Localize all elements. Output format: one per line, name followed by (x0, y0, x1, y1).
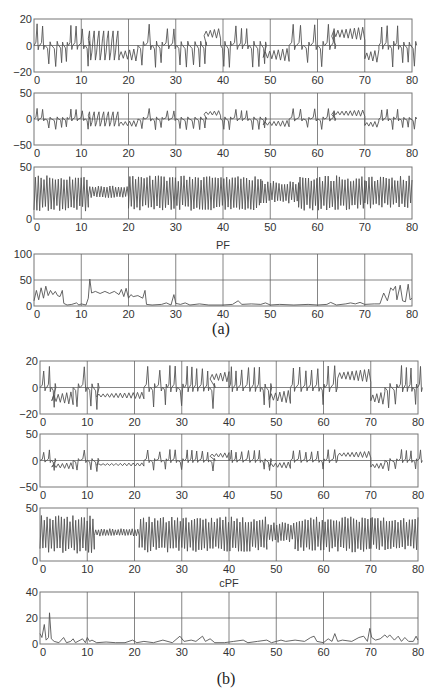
subplot-a-3: 01020304050607080050 (20, 161, 418, 233)
x-tick-label: 20 (122, 221, 134, 233)
x-tick-label: 40 (223, 416, 235, 428)
y-tick-label: 0 (26, 113, 32, 125)
caption-a: (a) (212, 320, 230, 338)
y-tick-label: 50 (20, 161, 32, 173)
x-tick-label: 0 (40, 416, 46, 428)
x-tick-label: 30 (176, 563, 188, 575)
x-tick-label: 50 (264, 308, 276, 320)
x-tick-label: 60 (317, 646, 329, 658)
x-tick-label: 30 (176, 646, 188, 658)
x-tick-label: 70 (359, 308, 371, 320)
x-tick-label: 60 (311, 147, 323, 159)
x-tick-label: 20 (128, 646, 140, 658)
subplot-a-4: 01020304050607080050100PF (14, 239, 418, 320)
subplot-b-2: 01020304050607080−50050 (19, 428, 424, 501)
x-tick-label: 20 (128, 563, 140, 575)
subplot-a-1: 01020304050607080−20020 (13, 13, 418, 86)
x-tick-label: 50 (270, 416, 282, 428)
y-tick-label: 20 (26, 355, 38, 367)
y-tick-label: 50 (20, 274, 32, 286)
x-tick-label: 20 (122, 147, 134, 159)
x-tick-label: 70 (359, 221, 371, 233)
x-tick-label: 60 (317, 563, 329, 575)
x-tick-label: 10 (81, 563, 93, 575)
x-tick-label: 70 (365, 489, 377, 501)
x-tick-label: 10 (75, 221, 87, 233)
x-tick-label: 0 (34, 221, 40, 233)
subplot-b-3: 01020304050607080050 (26, 502, 424, 575)
x-tick-label: 0 (40, 489, 46, 501)
x-tick-label: 10 (81, 646, 93, 658)
x-tick-label: 0 (34, 308, 40, 320)
y-tick-label: 0 (32, 382, 38, 394)
x-tick-label: 10 (75, 147, 87, 159)
x-tick-label: 50 (270, 563, 282, 575)
x-tick-label: 80 (406, 221, 418, 233)
subplot-a-2: 01020304050607080−50050 (13, 87, 418, 159)
x-tick-label: 80 (412, 646, 424, 658)
x-tick-label: 30 (170, 308, 182, 320)
x-tick-label: 0 (34, 74, 40, 86)
x-tick-label: 40 (217, 308, 229, 320)
x-tick-label: 70 (359, 74, 371, 86)
figure-canvas: 01020304050607080−2002001020304050607080… (0, 0, 442, 695)
y-tick-label: 100 (14, 248, 32, 260)
x-tick-label: 50 (270, 646, 282, 658)
y-tick-label: 20 (20, 13, 32, 25)
subplot-b-4: 0102030405060708002040cPF (26, 577, 424, 658)
x-tick-label: 40 (217, 221, 229, 233)
y-tick-label: 0 (26, 300, 32, 312)
x-tick-label: 20 (128, 489, 140, 501)
x-tick-label: 40 (223, 563, 235, 575)
y-tick-label: −20 (13, 66, 32, 78)
x-tick-label: 10 (81, 416, 93, 428)
x-tick-label: 60 (311, 221, 323, 233)
y-tick-label: −50 (19, 481, 38, 493)
x-tick-label: 0 (40, 646, 46, 658)
y-tick-label: 0 (32, 555, 38, 567)
subplot-title: PF (216, 239, 230, 251)
y-tick-label: 50 (26, 502, 38, 514)
x-tick-label: 50 (264, 147, 276, 159)
subplot-title: cPF (219, 577, 239, 589)
x-tick-label: 70 (365, 646, 377, 658)
x-tick-label: 80 (412, 489, 424, 501)
y-tick-label: 50 (26, 428, 38, 440)
x-tick-label: 30 (170, 147, 182, 159)
x-tick-label: 80 (406, 147, 418, 159)
y-tick-label: −50 (13, 139, 32, 151)
x-tick-label: 0 (34, 147, 40, 159)
x-tick-label: 10 (75, 74, 87, 86)
y-tick-label: 0 (32, 455, 38, 467)
x-tick-label: 40 (217, 74, 229, 86)
x-tick-label: 40 (223, 646, 235, 658)
x-tick-label: 80 (406, 308, 418, 320)
x-tick-label: 80 (406, 74, 418, 86)
x-tick-label: 0 (40, 563, 46, 575)
y-tick-label: 20 (26, 612, 38, 624)
subplot-b-1: 01020304050607080−20020 (19, 355, 424, 428)
x-tick-label: 10 (75, 308, 87, 320)
x-tick-label: 20 (122, 74, 134, 86)
x-tick-label: 30 (176, 489, 188, 501)
x-tick-label: 80 (412, 416, 424, 428)
x-tick-label: 30 (170, 74, 182, 86)
x-tick-label: 60 (311, 74, 323, 86)
y-tick-label: 40 (26, 586, 38, 598)
y-tick-label: −20 (19, 408, 38, 420)
x-tick-label: 70 (359, 147, 371, 159)
y-tick-label: 0 (26, 213, 32, 225)
x-tick-label: 40 (223, 489, 235, 501)
y-tick-label: 0 (32, 638, 38, 650)
x-tick-label: 30 (176, 416, 188, 428)
x-tick-label: 40 (217, 147, 229, 159)
y-tick-label: 0 (26, 40, 32, 52)
x-tick-label: 50 (270, 489, 282, 501)
x-tick-label: 60 (317, 416, 329, 428)
x-tick-label: 30 (170, 221, 182, 233)
x-tick-label: 10 (81, 489, 93, 501)
x-tick-label: 60 (311, 308, 323, 320)
x-tick-label: 50 (264, 221, 276, 233)
x-tick-label: 50 (264, 74, 276, 86)
x-tick-label: 70 (365, 416, 377, 428)
